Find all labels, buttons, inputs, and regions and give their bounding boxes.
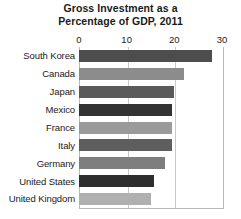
chart-title-line-1: Gross Investment as a	[0, 2, 241, 15]
bar-row	[79, 172, 222, 190]
category-row: Mexico	[0, 101, 75, 119]
bar-france	[79, 122, 172, 134]
category-label-italy: Italy	[58, 140, 75, 151]
category-label-south-korea: South Korea	[23, 50, 75, 61]
category-row: Japan	[0, 83, 75, 101]
bar-row	[79, 65, 222, 83]
bar-united-states	[79, 175, 154, 187]
bars-layer	[79, 47, 222, 208]
category-label-germany: Germany	[37, 158, 75, 169]
bar-germany	[79, 157, 165, 169]
bar-italy	[79, 139, 172, 151]
category-label-france: France	[46, 122, 75, 133]
bar-row	[79, 119, 222, 137]
x-tick-label-10: 10	[121, 34, 132, 45]
y-axis-category-labels: South KoreaCanadaJapanMexicoFranceItalyG…	[0, 47, 75, 208]
category-label-mexico: Mexico	[46, 104, 76, 115]
category-row: France	[0, 119, 75, 137]
category-label-canada: Canada	[42, 68, 75, 79]
chart-title-line-2: Percentage of GDP, 2011	[0, 15, 241, 28]
category-row: United States	[0, 172, 75, 190]
bar-row	[79, 154, 222, 172]
bar-row	[79, 136, 222, 154]
bar-row	[79, 101, 222, 119]
category-row: South Korea	[0, 47, 75, 65]
bar-row	[79, 47, 222, 65]
bar-south-korea	[79, 50, 212, 62]
x-tick-label-20: 20	[169, 34, 180, 45]
category-row: United Kingdom	[0, 190, 75, 208]
bar-row	[79, 190, 222, 208]
category-label-united-states: United States	[19, 176, 75, 187]
bar-chart: Gross Investment as a Percentage of GDP,…	[0, 0, 241, 219]
bar-mexico	[79, 104, 172, 116]
category-row: Italy	[0, 136, 75, 154]
chart-title: Gross Investment as a Percentage of GDP,…	[0, 2, 241, 28]
bar-row	[79, 83, 222, 101]
category-row: Canada	[0, 65, 75, 83]
x-axis-tick-labels: 0102030	[0, 34, 241, 46]
x-tick-label-30: 30	[217, 34, 228, 45]
category-label-japan: Japan	[50, 86, 75, 97]
bar-japan	[79, 86, 174, 98]
category-row: Germany	[0, 154, 75, 172]
category-label-united-kingdom: United Kingdom	[9, 193, 75, 204]
x-tick-label-0: 0	[76, 34, 81, 45]
bar-canada	[79, 68, 184, 80]
bar-united-kingdom	[79, 193, 151, 205]
